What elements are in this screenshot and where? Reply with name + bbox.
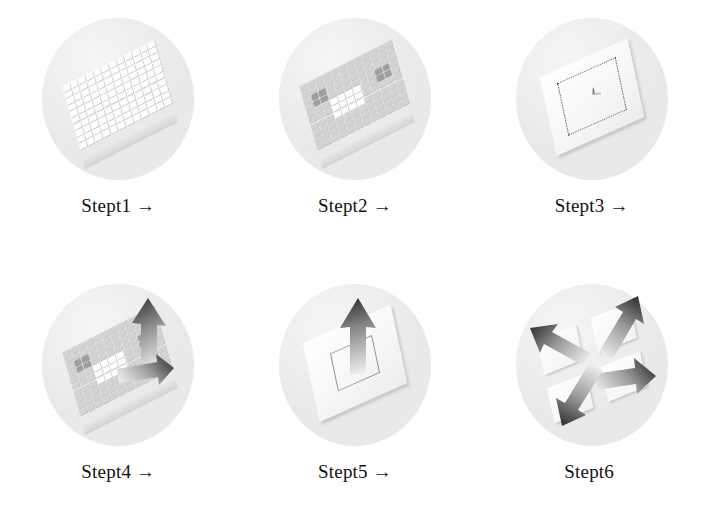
step-1-illustration xyxy=(42,18,194,180)
step-5-label: Stept5→ xyxy=(318,462,392,481)
step-2-label: Stept2→ xyxy=(318,196,392,215)
step-3-label: Stept3→ xyxy=(555,196,629,215)
center-marker-arrow-icon xyxy=(588,86,604,102)
block-cell xyxy=(79,141,87,150)
step-1-label-text: Stept1 xyxy=(81,195,131,216)
step-4-label: Stept4→ xyxy=(81,462,155,481)
step-panel-2: Stept2→ xyxy=(237,0,474,266)
block-array-shaded xyxy=(299,39,411,152)
step-4-arrow-glyph: → xyxy=(136,461,155,482)
block-cell xyxy=(354,121,362,130)
scene-block-array-arrows xyxy=(42,284,194,446)
step-2-arrow-glyph: → xyxy=(373,195,392,216)
scene-tiles-four-arrows xyxy=(516,284,668,446)
block-cell xyxy=(125,117,133,126)
step-panel-4: Stept4→ xyxy=(0,266,237,531)
block-cell xyxy=(378,109,386,118)
block-cell xyxy=(339,129,347,138)
emerging-arrow-right-icon xyxy=(114,352,178,392)
step-panel-1: Stept1→ xyxy=(0,0,237,266)
step-6-illustration xyxy=(516,284,668,446)
step-4-illustration xyxy=(42,284,194,446)
process-steps-figure: Stept1→ Stept2→ xyxy=(0,0,710,531)
radiating-arrow-down-left-icon xyxy=(550,358,608,430)
block-cell xyxy=(331,133,339,142)
step-2-illustration xyxy=(279,18,431,180)
step-5-label-text: Stept5 xyxy=(318,461,368,482)
block-cell xyxy=(164,97,172,106)
block-array-plain xyxy=(63,39,175,152)
block-cell xyxy=(102,129,110,138)
plate-arrow-up-icon xyxy=(336,296,382,378)
block-cell xyxy=(316,141,324,150)
step-6-label-text: Stept6 xyxy=(564,461,614,482)
scene-block-array-shaded xyxy=(279,18,431,180)
block-cell xyxy=(401,97,409,106)
block-cell xyxy=(323,137,331,146)
step-6-label: Stept6 xyxy=(564,462,619,481)
step-3-arrow-glyph: → xyxy=(609,195,628,216)
steps-grid: Stept1→ Stept2→ xyxy=(0,0,710,531)
step-5-arrow-glyph: → xyxy=(373,461,392,482)
step-3-illustration xyxy=(516,18,668,180)
block-cell xyxy=(385,105,393,114)
step-3-label-text: Stept3 xyxy=(555,195,605,216)
step-panel-5: Stept5→ xyxy=(237,266,474,531)
step-panel-3: Stept3→ xyxy=(473,0,710,266)
step-1-label: Stept1→ xyxy=(81,196,155,215)
scene-plate-dotted xyxy=(516,18,668,180)
step-1-arrow-glyph: → xyxy=(136,195,155,216)
block-cell xyxy=(370,113,378,122)
block-cell xyxy=(362,117,370,126)
scene-block-array-plain xyxy=(42,18,194,180)
block-cell xyxy=(149,105,157,114)
scene-plate-arrow-up xyxy=(279,284,431,446)
block-cell xyxy=(393,101,401,110)
step-5-illustration xyxy=(279,284,431,446)
block-cell xyxy=(347,125,355,134)
step-panel-6: Stept6 xyxy=(473,266,710,531)
step-4-label-text: Stept4 xyxy=(81,461,131,482)
step-2-label-text: Stept2 xyxy=(318,195,368,216)
